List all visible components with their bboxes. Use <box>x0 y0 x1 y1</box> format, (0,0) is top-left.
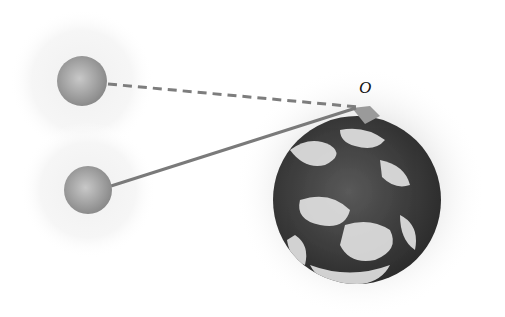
upper-sphere <box>57 56 107 106</box>
diagram-canvas <box>0 0 505 317</box>
lower-sphere <box>64 166 112 214</box>
point-o-label: O <box>359 78 371 98</box>
